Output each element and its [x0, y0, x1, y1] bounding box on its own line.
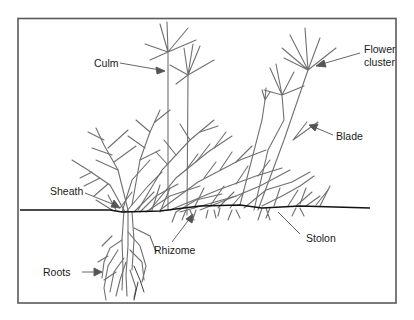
culm-leader	[120, 63, 160, 70]
blade-leader	[314, 127, 333, 135]
label-culm: Culm	[94, 57, 119, 69]
culm-arrowhead	[156, 67, 165, 74]
label-sheath: Sheath	[50, 185, 83, 197]
ground-line	[20, 205, 370, 212]
diagram-frame: Culm Flower cluster Blade Sheath Rhizome…	[0, 0, 414, 320]
rhizome-leader	[172, 218, 190, 242]
stolon-leader	[278, 212, 300, 234]
roots-arrowhead	[94, 268, 102, 276]
diagram-border	[18, 19, 396, 304]
label-flower-cluster-line2: cluster	[364, 56, 395, 68]
label-blade: Blade	[336, 130, 363, 142]
label-flower-cluster-line1: Flower	[364, 43, 396, 55]
label-roots: Roots	[43, 266, 70, 278]
flower-cluster-arrowhead	[316, 60, 326, 67]
label-rhizome: Rhizome	[154, 244, 195, 256]
label-stolon: Stolon	[306, 232, 336, 244]
